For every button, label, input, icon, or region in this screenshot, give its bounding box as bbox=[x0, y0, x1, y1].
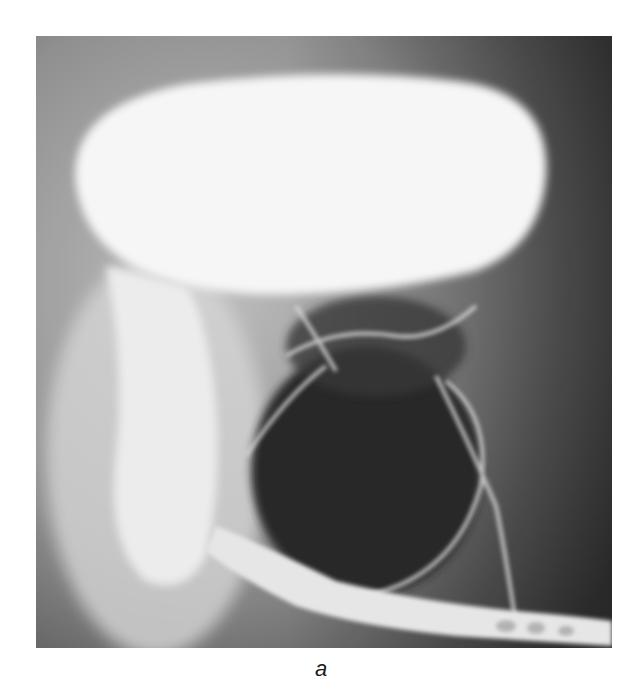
panel-label: a bbox=[0, 656, 642, 682]
radiograph-image bbox=[36, 36, 612, 648]
radiograph-drawing bbox=[36, 36, 612, 648]
